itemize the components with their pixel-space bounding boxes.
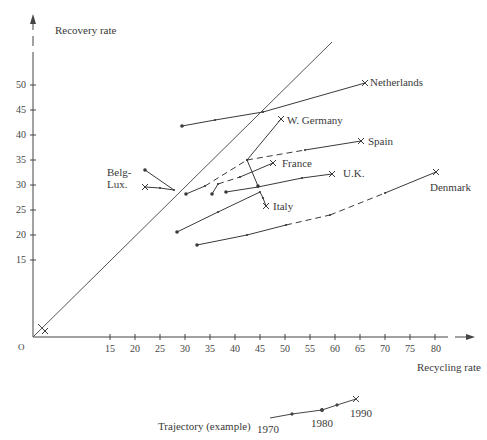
start-dot-icon xyxy=(143,168,147,172)
label-denmark: Denmark xyxy=(430,181,471,193)
y-tick-50: 50 xyxy=(4,79,26,90)
trajectory-denmark xyxy=(195,169,439,247)
x-tick-40: 40 xyxy=(225,343,245,354)
x-axis xyxy=(33,334,475,340)
x-tick-45: 45 xyxy=(250,343,270,354)
trajectory-france xyxy=(210,160,276,196)
y-tick-40: 40 xyxy=(4,129,26,140)
x-axis-arrow-icon xyxy=(466,334,475,340)
y-tick-30: 30 xyxy=(4,179,26,190)
label-lux: Lux. xyxy=(107,178,127,190)
y-axis xyxy=(30,14,36,337)
y-tick-45: 45 xyxy=(4,104,26,115)
axis-ticks xyxy=(30,85,435,340)
end-cross-icon xyxy=(278,116,284,122)
trajectory-origin-cluster xyxy=(38,324,48,334)
y-axis-title: Recovery rate xyxy=(55,24,116,36)
x-axis-title: Recycling rate xyxy=(417,361,481,373)
x-tick-35: 35 xyxy=(200,343,220,354)
x-tick-30: 30 xyxy=(175,343,195,354)
y-tick-15: 15 xyxy=(4,254,26,265)
end-cross-icon xyxy=(433,169,439,175)
start-dot-icon xyxy=(180,124,184,128)
trajectory-belg-lux- xyxy=(142,168,175,191)
legend-year-1990: 1990 xyxy=(350,407,372,419)
x-tick-50: 50 xyxy=(275,343,295,354)
chart-canvas xyxy=(0,0,487,440)
x-tick-75: 75 xyxy=(400,343,420,354)
x-tick-65: 65 xyxy=(350,343,370,354)
legend-trajectory xyxy=(270,396,359,418)
start-dot-icon xyxy=(184,192,188,196)
start-dot-icon xyxy=(175,230,179,234)
start-dot-icon xyxy=(224,190,228,194)
legend-year-1980: 1980 xyxy=(311,417,333,429)
legend-label: Trajectory (example) xyxy=(158,420,251,432)
label-belg: Belg- xyxy=(107,166,131,178)
trajectories xyxy=(38,80,439,334)
end-cross-icon xyxy=(263,203,269,209)
start-dot-icon xyxy=(195,243,199,247)
x-tick-70: 70 xyxy=(375,343,395,354)
label-netherlands: Netherlands xyxy=(370,76,423,88)
start-dot-icon xyxy=(210,192,214,196)
label-france: France xyxy=(282,157,312,169)
y-tick-35: 35 xyxy=(4,154,26,165)
end-cross-icon xyxy=(270,160,276,166)
legend-year-1970: 1970 xyxy=(257,423,279,435)
y-axis-arrow-icon xyxy=(30,14,36,24)
origin-label: O xyxy=(18,341,25,353)
trajectory-italy xyxy=(175,191,269,234)
x-tick-60: 60 xyxy=(325,343,345,354)
trajectory-w-germany xyxy=(246,116,284,188)
trajectory-u-k- xyxy=(224,171,335,194)
x-tick-80: 80 xyxy=(426,343,446,354)
x-tick-25: 25 xyxy=(150,343,170,354)
label-w-germany: W. Germany xyxy=(287,114,343,126)
end-cross-icon xyxy=(362,80,368,86)
y-tick-20: 20 xyxy=(4,229,26,240)
diagonal-reference-line xyxy=(33,42,332,337)
end-cross-icon xyxy=(42,328,48,334)
label-uk: U.K. xyxy=(343,167,364,179)
trajectory-spain xyxy=(184,138,364,196)
y-tick-25: 25 xyxy=(4,204,26,215)
x-tick-20: 20 xyxy=(125,343,145,354)
end-cross-icon xyxy=(353,396,359,402)
label-spain: Spain xyxy=(368,135,393,147)
x-tick-15: 15 xyxy=(100,343,120,354)
label-italy: Italy xyxy=(273,200,293,212)
x-tick-55: 55 xyxy=(300,343,320,354)
